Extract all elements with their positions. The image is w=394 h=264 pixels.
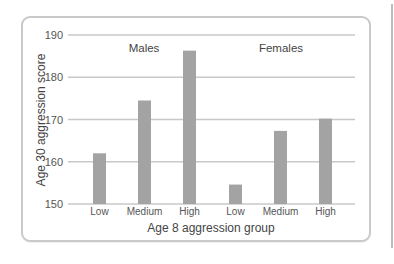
bars: [93, 51, 332, 204]
y-axis-title: Age 30 aggression score: [34, 53, 48, 186]
group-label-females: Females: [259, 42, 303, 54]
x-category-label: Low: [226, 206, 245, 217]
bar-females-medium: [274, 131, 287, 204]
x-category-label: High: [179, 206, 200, 217]
bar-chart: 150160170180190 LowMediumHighLowMediumHi…: [0, 0, 394, 264]
bar-females-low: [229, 185, 242, 204]
x-axis-categories: LowMediumHighLowMediumHigh: [90, 206, 335, 217]
bar-males-low: [93, 153, 106, 204]
x-category-label: High: [315, 206, 336, 217]
y-tick-label: 190: [45, 29, 63, 41]
group-labels: MalesFemales: [129, 42, 304, 54]
bar-females-high: [319, 119, 332, 204]
x-category-label: Medium: [263, 206, 299, 217]
x-category-label: Low: [90, 206, 109, 217]
bar-males-medium: [138, 100, 151, 204]
bar-males-high: [183, 51, 196, 204]
y-tick-label: 150: [45, 198, 63, 210]
gridlines: [68, 35, 355, 204]
x-category-label: Medium: [127, 206, 163, 217]
x-axis-title: Age 8 aggression group: [147, 221, 275, 235]
group-label-males: Males: [129, 42, 160, 54]
